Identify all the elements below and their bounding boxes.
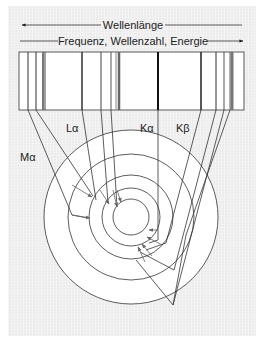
spectral-line bbox=[28, 52, 29, 110]
spectral-line bbox=[116, 52, 117, 110]
l-alpha-label: Lα bbox=[66, 122, 79, 134]
spectral-line bbox=[111, 52, 112, 110]
k-beta-label: Kβ bbox=[176, 122, 190, 134]
spectral-line bbox=[157, 52, 159, 110]
xray-spectrum-diagram: Wellenlänge Frequenz, Wellenzahl, Energi… bbox=[0, 0, 262, 341]
spectral-line bbox=[216, 52, 217, 110]
spectral-line bbox=[45, 52, 46, 110]
wavelength-label: Wellenlänge bbox=[103, 19, 163, 31]
electron-shell bbox=[44, 130, 218, 304]
spectral-line bbox=[231, 52, 234, 110]
spectrum-strip bbox=[19, 52, 244, 110]
spectral-line bbox=[200, 52, 202, 110]
atom-shells bbox=[44, 130, 218, 304]
spectral-line bbox=[224, 52, 225, 110]
spectral-line bbox=[101, 52, 102, 110]
spectral-line bbox=[36, 52, 37, 110]
m-alpha-label: Mα bbox=[20, 151, 36, 163]
frequency-label: Frequenz, Wellenzahl, Energie bbox=[58, 35, 208, 47]
spectral-line bbox=[81, 52, 83, 110]
spectral-line bbox=[230, 52, 231, 110]
spectral-line bbox=[42, 52, 44, 110]
k-alpha-label: Kα bbox=[140, 122, 154, 134]
spectral-line bbox=[118, 52, 121, 110]
